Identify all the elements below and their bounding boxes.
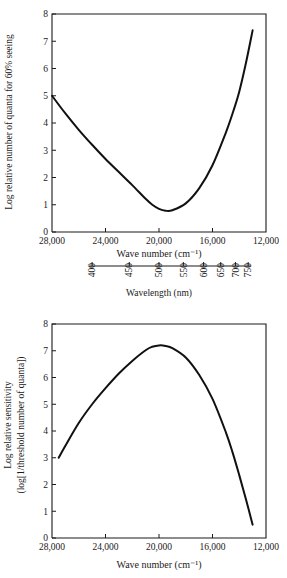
y-tick-label: 2 <box>43 173 48 183</box>
y-tick-label: 4 <box>43 426 48 436</box>
bottom-y-axis-title-line2: (log[1/threshold number of quanta]) <box>16 357 27 494</box>
top-x-tick-labels: 28,00024,00020,00016,00012,000 <box>39 236 279 246</box>
bottom-x-axis-title: Wave number (cm⁻¹) <box>117 559 202 571</box>
y-tick-label: 7 <box>43 37 48 47</box>
y-tick-label: 0 <box>43 227 48 237</box>
y-tick-label: 1 <box>43 200 48 210</box>
top-y-axis-title: Log relative number of quanta for 60% se… <box>4 34 14 210</box>
wavelength-tick-label: 750 <box>243 263 253 278</box>
bottom-y-axis-title-line1: Log relative sensitivity <box>3 381 13 469</box>
bottom-plot-frame <box>52 324 266 538</box>
x-tick-label: 16,000 <box>199 236 225 246</box>
bottom-data-curve <box>59 345 253 524</box>
x-tick-label: 28,000 <box>39 236 65 246</box>
top-x-axis-title: Wave number (cm⁻¹) <box>117 248 202 260</box>
x-tick-label: 12,000 <box>253 542 279 552</box>
y-tick-label: 5 <box>43 400 48 410</box>
y-tick-label: 6 <box>43 373 48 383</box>
y-tick-label: 6 <box>43 64 48 74</box>
wavelength-tick-label: 450 <box>124 263 134 278</box>
y-tick-label: 1 <box>43 507 48 517</box>
plot-frame <box>52 14 266 232</box>
x-tick-label: 20,000 <box>146 236 172 246</box>
x-tick-label: 12,000 <box>253 236 279 246</box>
top-axis-ticks <box>52 14 213 232</box>
top-data-curve <box>52 30 253 211</box>
y-tick-label: 7 <box>43 346 48 356</box>
chart-panel-top: 28,00024,00020,00016,00012,000 012345678… <box>0 0 287 300</box>
top-wavelength-axis: 400450500550600650700750 <box>87 262 253 277</box>
y-tick-label: 8 <box>43 319 48 329</box>
bottom-axis-ticks <box>52 324 213 538</box>
wavelength-tick-label: 650 <box>216 263 226 278</box>
y-tick-label: 8 <box>43 9 48 19</box>
bottom-x-tick-labels: 28,00024,00020,00016,00012,000 <box>39 542 279 552</box>
wavelength-tick-label: 500 <box>154 263 164 278</box>
wavelength-tick-label: 400 <box>87 263 97 278</box>
y-tick-label: 4 <box>43 118 48 128</box>
y-tick-label: 3 <box>43 146 48 156</box>
y-tick-label: 2 <box>43 480 48 490</box>
plot-frame <box>52 324 266 538</box>
bottom-chart-svg: 28,00024,00020,00016,00012,000 012345678… <box>0 300 287 578</box>
data-curve <box>59 345 253 524</box>
x-tick-label: 24,000 <box>92 542 118 552</box>
wavelength-tick-label: 600 <box>199 263 209 278</box>
chart-panel-bottom: 28,00024,00020,00016,00012,000 012345678… <box>0 300 287 578</box>
wavelength-tick-label: 700 <box>231 263 241 278</box>
top-plot-frame <box>52 14 266 232</box>
x-tick-label: 28,000 <box>39 542 65 552</box>
y-tick-label: 0 <box>43 533 48 543</box>
figure-two-panel-spectral-sensitivity: 28,00024,00020,00016,00012,000 012345678… <box>0 0 287 578</box>
top-y-tick-labels: 012345678 <box>43 9 48 237</box>
top-chart-svg: 28,00024,00020,00016,00012,000 012345678… <box>0 0 287 300</box>
wavelength-tick-label: 550 <box>179 263 189 278</box>
y-tick-label: 3 <box>43 453 48 463</box>
x-tick-label: 24,000 <box>92 236 118 246</box>
top-wavelength-axis-title: Wavelength (nm) <box>126 288 192 299</box>
x-tick-label: 20,000 <box>146 542 172 552</box>
bottom-y-tick-labels: 012345678 <box>43 319 48 543</box>
y-tick-label: 5 <box>43 91 48 101</box>
data-curve <box>52 30 253 211</box>
x-tick-label: 16,000 <box>199 542 225 552</box>
